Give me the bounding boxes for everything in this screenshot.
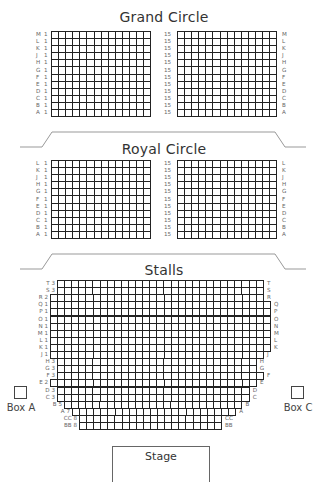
seat[interactable]	[263, 82, 270, 89]
seat[interactable]	[80, 89, 87, 96]
seat[interactable]	[116, 96, 123, 103]
seat[interactable]	[178, 103, 185, 110]
seat[interactable]	[144, 82, 151, 89]
seat[interactable]	[249, 204, 256, 211]
seat[interactable]	[130, 182, 137, 189]
seat[interactable]	[228, 232, 235, 239]
seat[interactable]	[206, 96, 213, 103]
seat[interactable]	[185, 53, 192, 60]
seat[interactable]	[221, 39, 228, 46]
seat[interactable]	[66, 161, 73, 168]
seat[interactable]	[192, 232, 199, 239]
seat[interactable]	[59, 103, 66, 110]
seat[interactable]	[270, 67, 277, 74]
seat[interactable]	[80, 39, 87, 46]
seat[interactable]	[221, 75, 228, 82]
seat[interactable]	[178, 82, 185, 89]
seat[interactable]	[213, 39, 220, 46]
seat[interactable]	[130, 103, 137, 110]
seat[interactable]	[144, 211, 151, 218]
seat[interactable]	[201, 423, 208, 430]
seat[interactable]	[199, 46, 206, 53]
seat[interactable]	[178, 110, 185, 117]
seat[interactable]	[242, 67, 249, 74]
seat[interactable]	[144, 423, 151, 430]
seat[interactable]	[130, 82, 137, 89]
seat[interactable]	[263, 110, 270, 117]
seat[interactable]	[73, 225, 80, 232]
seat[interactable]	[95, 218, 102, 225]
seat[interactable]	[130, 175, 137, 182]
seat[interactable]	[249, 67, 256, 74]
seat[interactable]	[242, 204, 249, 211]
seat[interactable]	[137, 96, 144, 103]
seat[interactable]	[206, 218, 213, 225]
seat[interactable]	[80, 53, 87, 60]
seat[interactable]	[137, 182, 144, 189]
seat[interactable]	[80, 225, 87, 232]
seat[interactable]	[256, 232, 263, 239]
seat[interactable]	[66, 39, 73, 46]
seat[interactable]	[73, 175, 80, 182]
seat[interactable]	[263, 103, 270, 110]
seat[interactable]	[263, 189, 270, 196]
seat[interactable]	[95, 89, 102, 96]
seat[interactable]	[80, 96, 87, 103]
seat[interactable]	[137, 110, 144, 117]
seat[interactable]	[185, 67, 192, 74]
seat[interactable]	[206, 32, 213, 39]
seat[interactable]	[213, 53, 220, 60]
seat[interactable]	[109, 225, 116, 232]
seat[interactable]	[256, 67, 263, 74]
seat[interactable]	[52, 211, 59, 218]
seat[interactable]	[256, 182, 263, 189]
seat[interactable]	[199, 96, 206, 103]
seat[interactable]	[263, 67, 270, 74]
seat[interactable]	[256, 46, 263, 53]
seat[interactable]	[116, 82, 123, 89]
seat[interactable]	[263, 96, 270, 103]
seat[interactable]	[123, 53, 130, 60]
seat[interactable]	[137, 32, 144, 39]
seat[interactable]	[221, 46, 228, 53]
seat[interactable]	[235, 82, 242, 89]
seat[interactable]	[66, 32, 73, 39]
seat[interactable]	[95, 46, 102, 53]
seat[interactable]	[221, 60, 228, 67]
seat[interactable]	[199, 39, 206, 46]
seat[interactable]	[263, 211, 270, 218]
seat[interactable]	[109, 67, 116, 74]
seat[interactable]	[80, 46, 87, 53]
seat[interactable]	[123, 211, 130, 218]
seat[interactable]	[270, 75, 277, 82]
seat[interactable]	[137, 46, 144, 53]
seat[interactable]	[192, 96, 199, 103]
seat[interactable]	[199, 196, 206, 203]
seat[interactable]	[59, 204, 66, 211]
seat[interactable]	[199, 218, 206, 225]
seat[interactable]	[228, 161, 235, 168]
seat[interactable]	[66, 168, 73, 175]
seat[interactable]	[213, 161, 220, 168]
seat[interactable]	[73, 110, 80, 117]
seat[interactable]	[130, 168, 137, 175]
seat[interactable]	[66, 175, 73, 182]
seat[interactable]	[137, 39, 144, 46]
seat[interactable]	[109, 89, 116, 96]
seat[interactable]	[137, 75, 144, 82]
seat[interactable]	[270, 232, 277, 239]
seat[interactable]	[102, 39, 109, 46]
seat[interactable]	[249, 189, 256, 196]
seat[interactable]	[221, 67, 228, 74]
seat[interactable]	[95, 32, 102, 39]
seat[interactable]	[116, 204, 123, 211]
seat[interactable]	[109, 211, 116, 218]
seat[interactable]	[235, 218, 242, 225]
seat[interactable]	[213, 211, 220, 218]
seat[interactable]	[270, 96, 277, 103]
seat[interactable]	[52, 103, 59, 110]
seat[interactable]	[137, 82, 144, 89]
seat[interactable]	[116, 32, 123, 39]
seat[interactable]	[66, 67, 73, 74]
seat[interactable]	[235, 168, 242, 175]
